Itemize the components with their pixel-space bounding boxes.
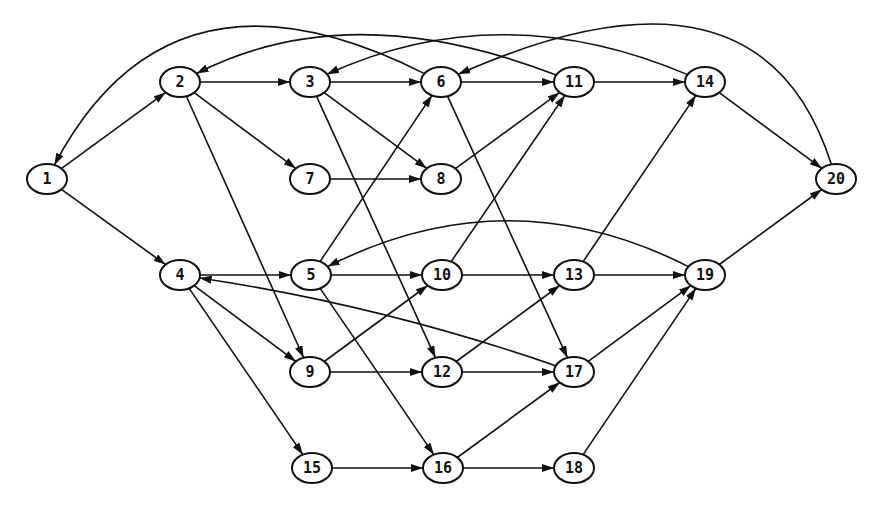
node-label: 17	[565, 363, 583, 381]
graph-canvas: 1236111478204510131991217151618	[0, 0, 884, 511]
edge-13-to-14	[583, 95, 696, 261]
edge-1-to-4	[61, 189, 165, 264]
edge-9-to-10	[324, 285, 427, 361]
node-19: 19	[685, 260, 725, 290]
edge-10-to-11	[451, 95, 565, 261]
node-6: 6	[421, 67, 461, 97]
node-20: 20	[816, 164, 856, 194]
node-label: 1	[42, 170, 51, 188]
node-8: 8	[421, 164, 461, 194]
edge-2-to-9	[186, 96, 303, 358]
node-label: 15	[303, 459, 321, 477]
node-3: 3	[290, 67, 330, 97]
node-2: 2	[160, 67, 200, 97]
node-12: 12	[422, 357, 462, 387]
nodes-layer: 1236111478204510131991217151618	[27, 67, 856, 483]
edge-14-to-20	[719, 93, 822, 169]
node-17: 17	[554, 357, 594, 387]
edge-6-to-1	[54, 26, 424, 165]
node-1: 1	[27, 164, 67, 194]
edge-4-to-15	[189, 288, 303, 454]
node-label: 12	[433, 363, 451, 381]
edge-4-to-9	[194, 286, 296, 362]
node-9: 9	[290, 357, 330, 387]
node-label: 6	[436, 73, 445, 91]
node-18: 18	[554, 453, 594, 483]
edge-8-to-11	[455, 92, 559, 168]
node-5: 5	[291, 260, 331, 290]
node-label: 18	[565, 459, 583, 477]
node-label: 7	[305, 170, 314, 188]
edge-2-to-7	[194, 93, 296, 169]
node-16: 16	[423, 453, 463, 483]
edge-17-to-19	[588, 286, 691, 362]
node-label: 11	[565, 73, 583, 91]
edge-19-to-20	[719, 189, 821, 264]
node-4: 4	[160, 260, 200, 290]
node-label: 14	[696, 73, 714, 91]
node-14: 14	[685, 67, 725, 97]
node-label: 19	[696, 266, 714, 284]
node-label: 16	[434, 459, 452, 477]
node-label: 3	[305, 73, 314, 91]
node-label: 4	[175, 266, 184, 284]
edge-1-to-2	[61, 92, 165, 168]
node-10: 10	[422, 260, 462, 290]
node-label: 8	[436, 170, 445, 188]
edge-20-to-6	[458, 24, 831, 164]
node-label: 13	[565, 266, 583, 284]
node-label: 20	[827, 170, 845, 188]
edge-3-to-12	[316, 96, 435, 358]
node-label: 9	[305, 363, 314, 381]
edge-18-to-19	[583, 288, 696, 454]
node-15: 15	[292, 453, 332, 483]
edge-16-to-17	[457, 382, 559, 457]
node-11: 11	[554, 67, 594, 97]
edge-3-to-8	[324, 93, 427, 169]
node-label: 5	[306, 266, 315, 284]
node-label: 2	[175, 73, 184, 91]
node-label: 10	[433, 266, 451, 284]
node-7: 7	[290, 164, 330, 194]
node-13: 13	[554, 260, 594, 290]
edge-6-to-17	[448, 96, 568, 358]
